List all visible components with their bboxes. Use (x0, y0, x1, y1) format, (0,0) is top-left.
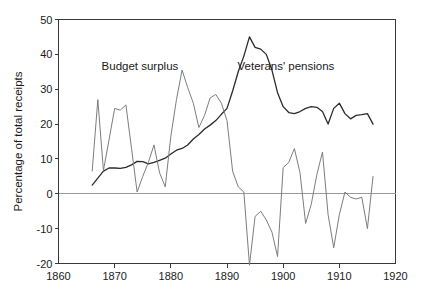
y-tick-label: 40 (40, 48, 52, 60)
y-tick-label: 50 (40, 14, 52, 26)
y-tick-label: 10 (40, 153, 52, 165)
y-axis-title: Percentage of total receipts (12, 71, 24, 211)
y-tick-label: -20 (37, 258, 53, 270)
series-annotation-label: Veterans' pensions (238, 60, 335, 72)
chart-background (0, 0, 421, 300)
chart-ylabel-group: Percentage of total receipts (12, 71, 24, 211)
x-tick-label: 1860 (46, 270, 70, 282)
x-tick-label: 1910 (327, 270, 351, 282)
x-tick-label: 1870 (102, 270, 126, 282)
x-tick-label: 1920 (383, 270, 407, 282)
x-tick-label: 1890 (215, 270, 239, 282)
chart-plot-area: -20-100102030405018601870188018901900191… (0, 0, 421, 300)
x-tick-label: 1880 (159, 270, 183, 282)
y-tick-label: 20 (40, 118, 52, 130)
y-tick-label: -10 (37, 223, 53, 235)
x-tick-label: 1900 (271, 270, 295, 282)
y-tick-label: 0 (46, 188, 52, 200)
chart-figure: -20-100102030405018601870188018901900191… (0, 0, 421, 300)
series-annotation-label: Budget surplus (102, 60, 179, 72)
y-tick-label: 30 (40, 83, 52, 95)
